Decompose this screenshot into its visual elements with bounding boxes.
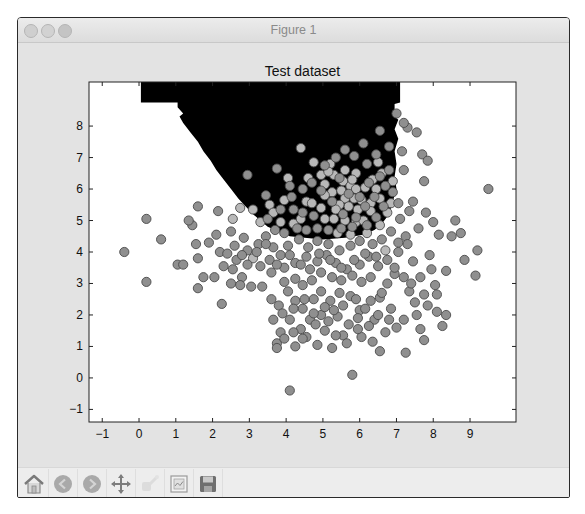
forward-button[interactable]: [78, 469, 107, 498]
data-point: [394, 238, 403, 247]
data-point: [309, 309, 318, 318]
data-point: [337, 276, 346, 285]
data-point: [276, 205, 285, 214]
title-bar[interactable]: Figure 1: [18, 18, 569, 43]
data-point: [359, 139, 368, 148]
data-point: [261, 191, 270, 200]
home-button[interactable]: [20, 469, 49, 498]
data-point: [236, 203, 245, 212]
data-point: [420, 336, 429, 345]
floppy-disk-icon: [197, 473, 219, 495]
data-point: [309, 211, 318, 220]
data-point: [337, 263, 346, 272]
data-point: [320, 161, 329, 170]
figure-window: Figure 1 Test dataset −10123456789 −1012…: [17, 17, 570, 498]
data-point: [372, 150, 381, 159]
data-point: [287, 192, 296, 201]
data-point: [328, 343, 337, 352]
data-point: [374, 262, 383, 271]
data-point: [381, 181, 390, 190]
plot-area[interactable]: [89, 82, 516, 422]
data-point: [228, 265, 237, 274]
data-point: [431, 281, 440, 290]
data-point: [385, 142, 394, 151]
data-point: [397, 147, 406, 156]
data-point: [191, 240, 200, 249]
data-point: [339, 210, 348, 219]
x-tick-label: 8: [430, 427, 437, 441]
pan-button[interactable]: [107, 469, 136, 498]
home-icon: [23, 473, 45, 495]
data-point: [416, 325, 425, 334]
data-point: [261, 240, 270, 249]
data-point: [366, 296, 375, 305]
data-point: [272, 260, 281, 269]
back-button[interactable]: [49, 469, 78, 498]
zoom-button[interactable]: [136, 469, 165, 498]
x-tick-label: 7: [393, 427, 400, 441]
data-point: [324, 240, 333, 249]
data-point: [386, 304, 395, 313]
data-point: [223, 249, 232, 258]
data-point: [320, 214, 329, 223]
y-tick-label: −1: [69, 402, 83, 416]
data-point: [298, 281, 307, 290]
data-point: [337, 224, 346, 233]
data-point: [193, 284, 202, 293]
data-point: [364, 321, 373, 330]
data-point: [210, 273, 219, 282]
data-point: [423, 156, 432, 165]
data-point: [473, 246, 482, 255]
data-point: [357, 277, 366, 286]
y-tick-label: 6: [76, 182, 83, 196]
data-point: [383, 255, 392, 264]
x-tick-label: 1: [172, 427, 179, 441]
save-button[interactable]: [194, 469, 223, 498]
subplots-button[interactable]: [165, 469, 194, 498]
data-point: [256, 262, 265, 271]
data-point: [427, 265, 436, 274]
data-point: [399, 273, 408, 282]
data-point: [385, 166, 394, 175]
data-point: [248, 205, 257, 214]
data-point: [315, 249, 324, 258]
data-point: [320, 326, 329, 335]
data-point: [239, 233, 248, 242]
figure-canvas[interactable]: Test dataset −10123456789 −1012345678: [18, 43, 569, 467]
x-tick-label: 6: [356, 427, 363, 441]
data-point: [335, 173, 344, 182]
data-point: [368, 337, 377, 346]
data-point: [309, 295, 318, 304]
data-point: [289, 328, 298, 337]
data-point: [285, 181, 294, 190]
data-point: [179, 260, 188, 269]
data-point: [313, 236, 322, 245]
scatter-chart[interactable]: Test dataset −10123456789 −1012345678: [18, 43, 569, 467]
data-point: [434, 230, 443, 239]
data-point: [291, 274, 300, 283]
data-point: [394, 199, 403, 208]
data-point: [432, 290, 441, 299]
data-point: [350, 255, 359, 264]
data-point: [320, 303, 329, 312]
data-point: [403, 240, 412, 249]
data-point: [276, 218, 285, 227]
data-point: [456, 229, 465, 238]
data-point: [324, 225, 333, 234]
data-point: [390, 263, 399, 272]
data-point: [193, 254, 202, 263]
data-point: [278, 309, 287, 318]
back-arrow-icon: [52, 473, 74, 495]
data-point: [383, 279, 392, 288]
data-point: [364, 178, 373, 187]
data-point: [408, 197, 417, 206]
data-point: [471, 271, 480, 280]
data-point: [298, 208, 307, 217]
data-point: [317, 203, 326, 212]
data-point: [407, 279, 416, 288]
data-point: [420, 290, 429, 299]
data-point: [432, 307, 441, 316]
data-point: [377, 288, 386, 297]
data-point: [142, 214, 151, 223]
window-title: Figure 1: [18, 23, 569, 37]
